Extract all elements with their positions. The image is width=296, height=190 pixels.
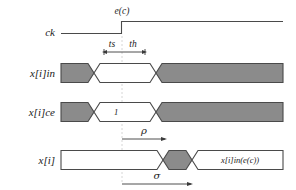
signal-label-ck: ck [45,26,56,38]
bus-segment-xiin-unknown-before [61,64,94,83]
signal-label-xiin: x[i]in [29,67,56,79]
bus-segment-xi-valid-before [61,151,163,170]
bus-segment-xiin-valid [94,64,156,83]
timing-diagram-figure: e(c) ck ts th x[i]in x[i]ce 1 ρ x[i] [0,0,296,190]
rho-arrow-head [161,137,167,141]
sigma-label: σ [154,170,162,181]
hold-time-label: th [129,39,137,49]
setup-hold-arrow-head-right [142,50,147,54]
bus-segment-xi-unknown-transition [163,151,192,170]
signal-label-xi: x[i] [38,154,56,166]
clock-event-label: e(c) [115,6,130,17]
bus-value-xi-result: x[i]in(e(c)) [220,155,259,165]
bus-segment-xiin-unknown-after [156,64,283,83]
bus-segment-xice-unknown-before [61,103,94,122]
rho-label: ρ [140,125,147,136]
setup-hold-arrow-head-left [102,50,107,54]
waveform-ck [61,22,283,34]
bus-segment-xice-unknown-after [156,103,283,122]
sigma-arrow-head [187,182,193,186]
bus-segment-xice-valid [94,103,156,122]
setup-time-label: ts [109,39,116,49]
signal-label-xice: x[i]ce [28,106,55,118]
timing-diagram-canvas: e(c) ck ts th x[i]in x[i]ce 1 ρ x[i] [0,0,296,190]
bus-value-xice-enable: 1 [114,107,118,117]
